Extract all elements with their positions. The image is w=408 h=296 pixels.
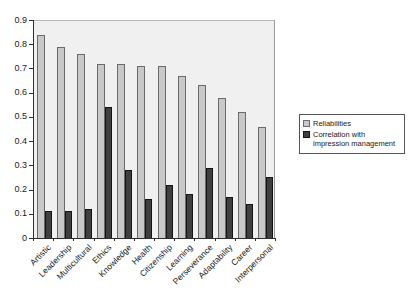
legend-entry-correlation-with-impression-management: Correlation with impression management — [302, 130, 402, 148]
x-tick-mark — [194, 238, 195, 241]
x-tick-mark — [134, 238, 135, 241]
chart-canvas: 0.90.80.70.60.50.40.30.20.10 ArtisticLea… — [0, 0, 408, 296]
y-tick-mark — [29, 214, 33, 215]
y-axis-label-0.1: 0.1 — [1, 209, 27, 218]
bar-reliabilities-perseverance — [198, 85, 206, 238]
bar-reliabilities-artistic — [37, 35, 45, 238]
x-tick-mark — [275, 238, 276, 241]
y-axis-label-0.4: 0.4 — [1, 137, 27, 146]
y-axis-label-0.3: 0.3 — [1, 161, 27, 170]
y-tick-mark — [29, 93, 33, 94]
bar-correlation-with-impression-management-artistic — [45, 211, 52, 238]
x-tick-mark — [114, 238, 115, 241]
bar-correlation-with-impression-management-perseverance — [206, 168, 213, 238]
y-axis-label-0.2: 0.2 — [1, 185, 27, 194]
bar-correlation-with-impression-management-knowledge — [125, 170, 132, 238]
legend-label: Correlation with impression management — [313, 130, 402, 148]
bar-reliabilities-adaptability — [218, 98, 226, 238]
x-tick-mark — [73, 238, 74, 241]
x-tick-mark — [94, 238, 95, 241]
bar-correlation-with-impression-management-citizenship — [166, 185, 173, 238]
y-axis-label-0.6: 0.6 — [1, 88, 27, 97]
plot-area — [33, 20, 275, 238]
bar-reliabilities-leadership — [57, 47, 65, 238]
bar-reliabilities-interpersonal — [258, 127, 266, 238]
legend-entry-reliabilities: Reliabilities — [302, 119, 402, 128]
bar-reliabilities-learning — [178, 76, 186, 238]
x-tick-mark — [255, 238, 256, 241]
y-axis-label-0.9: 0.9 — [1, 16, 27, 25]
bar-correlation-with-impression-management-multicultural — [85, 209, 92, 238]
bar-correlation-with-impression-management-learning — [186, 194, 193, 238]
x-tick-mark — [174, 238, 175, 241]
bar-correlation-with-impression-management-ethics — [105, 107, 112, 238]
bar-correlation-with-impression-management-interpersonal — [266, 177, 273, 238]
bar-correlation-with-impression-management-adaptability — [226, 197, 233, 238]
y-axis-label-0.5: 0.5 — [1, 112, 27, 121]
y-tick-mark — [29, 165, 33, 166]
bar-correlation-with-impression-management-career — [246, 204, 253, 238]
x-tick-mark — [235, 238, 236, 241]
y-axis-label-0: 0 — [1, 234, 27, 243]
bar-reliabilities-ethics — [97, 64, 105, 238]
y-tick-mark — [29, 141, 33, 142]
y-tick-mark — [29, 20, 33, 21]
bar-reliabilities-career — [238, 112, 246, 238]
y-axis-line — [33, 20, 34, 239]
x-tick-mark — [33, 238, 34, 241]
bar-reliabilities-citizenship — [158, 66, 166, 238]
y-axis-label-0.7: 0.7 — [1, 64, 27, 73]
bar-reliabilities-health — [137, 66, 145, 238]
x-axis-line — [30, 238, 276, 239]
y-tick-mark — [29, 44, 33, 45]
x-tick-mark — [53, 238, 54, 241]
legend-swatch-icon — [303, 120, 310, 127]
x-tick-mark — [154, 238, 155, 241]
legend: ReliabilitiesCorrelation with impression… — [299, 114, 405, 154]
bar-reliabilities-multicultural — [77, 54, 85, 238]
y-axis-label-0.8: 0.8 — [1, 40, 27, 49]
x-tick-mark — [215, 238, 216, 241]
bar-correlation-with-impression-management-health — [145, 199, 152, 238]
bar-reliabilities-knowledge — [117, 64, 125, 238]
y-tick-mark — [29, 117, 33, 118]
bar-correlation-with-impression-management-leadership — [65, 211, 72, 238]
y-tick-mark — [29, 190, 33, 191]
y-tick-mark — [29, 68, 33, 69]
legend-label: Reliabilities — [313, 119, 351, 128]
legend-swatch-icon — [303, 131, 310, 138]
